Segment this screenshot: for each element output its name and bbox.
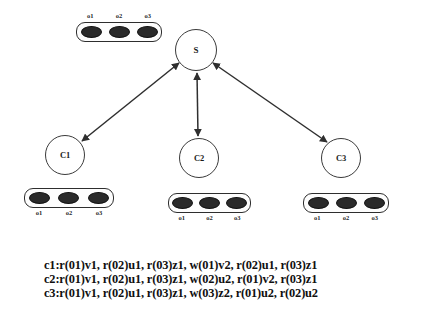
node-c2-label: C2: [194, 154, 204, 163]
node-s[interactable]: S: [175, 29, 217, 71]
store-c3-labels: o1 o2 o3: [303, 214, 389, 221]
object-ellipse-o2: [336, 197, 357, 209]
object-label-o3: o3: [364, 214, 385, 221]
object-ellipse-o3: [88, 192, 109, 204]
object-ellipse-o2: [199, 197, 220, 209]
store-c3: o1 o2 o3: [303, 193, 389, 225]
object-label-o3: o3: [89, 209, 110, 216]
node-s-label: S: [194, 46, 199, 55]
store-server-labels: o1 o2 o3: [76, 12, 162, 19]
object-ellipse-o3: [137, 26, 158, 38]
log-line-c3: c3:r(01)v1, r(02)u1, r(03)z1, w(03)z2, r…: [44, 286, 422, 300]
object-ellipse-o1: [29, 192, 50, 204]
edge-s-c3: [213, 63, 327, 142]
object-ellipse-o1: [172, 197, 193, 209]
object-ellipse-o1: [308, 197, 329, 209]
object-label-o3: o3: [137, 12, 158, 19]
edge-s-c1: [82, 63, 179, 141]
object-label-o2: o2: [108, 12, 129, 19]
object-label-o2: o2: [335, 214, 356, 221]
store-server: o1 o2 o3: [76, 12, 162, 44]
log-line-c1: c1:r(01)v1, r(02)u1, r(03)z1, w(01)v2, r…: [44, 258, 422, 272]
store-c2: o1 o2 o3: [168, 193, 251, 225]
store-c1-box: [24, 188, 114, 208]
object-ellipse-o3: [226, 197, 247, 209]
object-label-o2: o2: [59, 209, 80, 216]
store-c2-labels: o1 o2 o3: [168, 214, 251, 221]
object-label-o1: o1: [307, 214, 328, 221]
store-c1-labels: o1 o2 o3: [24, 209, 114, 216]
node-c2[interactable]: C2: [179, 138, 219, 178]
diagram-canvas: o1 o2 o3 S C1 C2 C3 o1 o2 o3: [0, 0, 422, 320]
store-c2-box: [168, 193, 251, 213]
node-c3[interactable]: C3: [321, 138, 361, 178]
edge-s-c2: [197, 73, 198, 136]
transaction-log: c1:r(01)v1, r(02)u1, r(03)z1, w(01)v2, r…: [44, 258, 422, 301]
log-line-c2: c2:r(01)v1, r(02)u1, r(03)z1, w(02)u2, r…: [44, 272, 422, 286]
object-label-o1: o1: [171, 214, 192, 221]
object-label-o1: o1: [80, 12, 101, 19]
object-label-o2: o2: [199, 214, 220, 221]
object-label-o1: o1: [29, 209, 50, 216]
object-ellipse-o2: [58, 192, 79, 204]
store-server-box: [76, 22, 162, 42]
node-c1[interactable]: C1: [45, 135, 85, 175]
object-label-o3: o3: [227, 214, 248, 221]
object-ellipse-o1: [81, 26, 102, 38]
object-ellipse-o2: [109, 26, 130, 38]
node-c1-label: C1: [60, 151, 70, 160]
store-c3-box: [303, 193, 389, 213]
object-ellipse-o3: [364, 197, 385, 209]
node-c3-label: C3: [336, 154, 346, 163]
store-c1: o1 o2 o3: [24, 188, 114, 220]
